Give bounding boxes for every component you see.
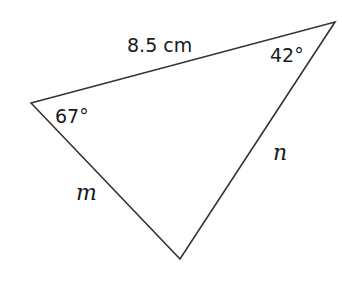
angle-label-left: 67°: [55, 105, 89, 127]
side-variable-n: n: [273, 140, 287, 165]
side-variable-m: m: [76, 180, 97, 205]
angle-label-top-right: 42°: [270, 44, 304, 66]
triangle-diagram: 8.5 cm 42° 67° n m: [0, 0, 342, 303]
side-length-label: 8.5 cm: [127, 34, 192, 56]
